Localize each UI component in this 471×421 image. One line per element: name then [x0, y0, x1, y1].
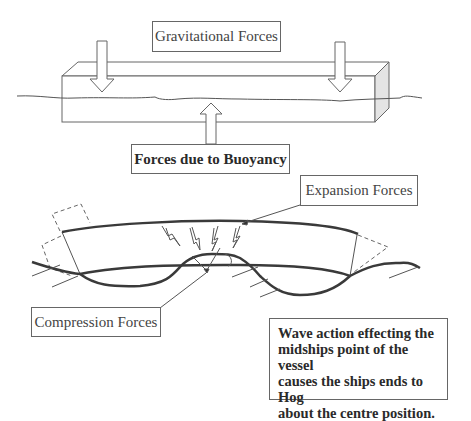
wave-line — [32, 254, 420, 295]
keel-line — [80, 265, 350, 276]
gravitational-forces-text: Gravitational Forces — [155, 28, 278, 45]
compression-forces-label: Compression Forces — [31, 307, 161, 337]
stress-bolt-icons — [162, 226, 240, 251]
expansion-forces-label: Expansion Forces — [300, 175, 418, 206]
hogging-explanation-box: Wave action effecting the midships point… — [269, 318, 448, 400]
gravitational-forces-label: Gravitational Forces — [152, 21, 281, 52]
compression-arrows — [192, 248, 220, 273]
compression-forces-text: Compression Forces — [35, 314, 158, 331]
buoyancy-forces-label: Forces due to Buoyancy — [131, 144, 290, 174]
hogging-explanation-text: Wave action effecting the midships point… — [278, 325, 439, 421]
buoyancy-forces-text: Forces due to Buoyancy — [134, 151, 287, 168]
expansion-forces-text: Expansion Forces — [305, 182, 412, 199]
deck-line — [62, 221, 358, 234]
